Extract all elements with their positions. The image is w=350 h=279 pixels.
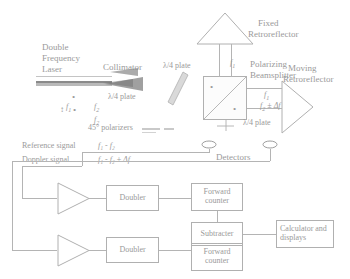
- reference-signal-value: f₁ - f₂: [98, 142, 115, 151]
- forward-counter-bottom-box: Forward counter: [191, 243, 243, 271]
- quarter-wave-plate-bottom-icon: [217, 120, 235, 132]
- polarizer-hatch-3: [164, 128, 174, 130]
- fixed-retroreflector-line2: Retroreflector: [248, 30, 298, 40]
- quarter-wave-plate-left-label: λ/4 plate: [108, 93, 136, 102]
- laser-beam-glow: [36, 83, 112, 86]
- reference-signal-run: [82, 152, 210, 153]
- laser-label-line2: Frequency: [42, 54, 80, 64]
- beam-frequency-1-sub: 1: [68, 106, 71, 112]
- doppler-signal-amp-in: [12, 250, 57, 251]
- laser-beam-thin-line: [36, 76, 112, 77]
- doubler-bottom-label: Doubler: [119, 246, 145, 255]
- beamsplitter-label-line1: Polarizing: [250, 60, 287, 70]
- amplifier-top-icon: [57, 182, 91, 215]
- counter-top-to-subtracter: [217, 211, 218, 222]
- forward-counter-top-box: Forward counter: [191, 183, 243, 211]
- doubler-top-box: Doubler: [106, 185, 159, 211]
- collimator-secondary-icon: [110, 66, 144, 78]
- polarization-marker-vertical: ↕: [60, 106, 64, 115]
- arm-fixed-beam-left: [219, 44, 220, 77]
- subtracter-label: Subtracter: [201, 230, 234, 239]
- doppler-signal-run: [12, 161, 270, 162]
- reference-signal-down: [82, 152, 83, 166]
- interferometer-diagram: Double Frequency Laser Collimator f1 • f…: [0, 0, 350, 279]
- forward-counter-top-line2: counter: [205, 197, 229, 206]
- arm-frequency-moving-shifted: f2 ± Δf: [252, 93, 281, 120]
- reference-signal-label: Reference signal: [22, 142, 76, 151]
- forward-counter-bottom-line2: counter: [205, 257, 229, 266]
- doppler-signal-down: [12, 161, 13, 250]
- laser-label-line3: Laser: [42, 65, 62, 75]
- amplifier-bottom-to-doubler: [89, 250, 106, 251]
- amplifier-top-to-doubler: [89, 198, 106, 199]
- beam-pol-dot-top: •: [72, 93, 75, 103]
- moving-retroreflector-icon: [281, 80, 315, 134]
- calculator-box: Calculator and displays: [276, 220, 334, 248]
- polarization-marker-dot: •: [73, 106, 76, 116]
- polarizer-hatch-2: [142, 132, 156, 133]
- fixed-retroreflector-icon: [196, 12, 254, 46]
- polarizers-label: 45° polarizers: [88, 124, 133, 133]
- quarter-wave-plate-bottom-label: λ/4 plate: [243, 119, 271, 128]
- doubler-top-label: Doubler: [119, 194, 145, 203]
- subtracter-to-calculator: [243, 234, 276, 235]
- arm-frequency-fixed-sub: 1: [232, 62, 235, 68]
- amplifier-bottom-icon: [57, 234, 91, 267]
- quarter-wave-plate-top-label: λ/4 plate: [163, 62, 191, 71]
- beamsplitter-dot-upper: •: [210, 83, 213, 93]
- doubler-top-to-counter: [159, 198, 191, 199]
- laser-label-line1: Double: [42, 43, 69, 53]
- reference-signal-to-amp: [22, 166, 82, 167]
- doubler-bottom-box: Doubler: [106, 237, 159, 263]
- polarizer-hatch-1: [142, 128, 160, 130]
- moving-retroreflector-line1: Moving: [288, 64, 317, 74]
- doubler-bottom-to-counter: [159, 250, 191, 251]
- detector-reference-icon: [201, 140, 217, 149]
- fixed-retroreflector-line1: Fixed: [258, 19, 279, 29]
- quarter-wave-plate-left-icon: [167, 72, 189, 106]
- detector-doppler-icon: [262, 140, 278, 149]
- doppler-signal-drop: [270, 149, 271, 161]
- moving-retroreflector-line2: Retroreflector: [283, 75, 333, 85]
- reference-signal-amp-drop: [22, 166, 23, 198]
- arm-frequency-moving-delta: ± Δf: [265, 101, 280, 110]
- counter-bottom-to-subtracter: [217, 243, 218, 244]
- reference-signal-amp-in: [22, 198, 57, 199]
- calculator-line2: displays: [280, 234, 306, 243]
- beamsplitter-dot-lower: •: [233, 105, 236, 115]
- arm-frequency-fixed: f1: [222, 50, 235, 77]
